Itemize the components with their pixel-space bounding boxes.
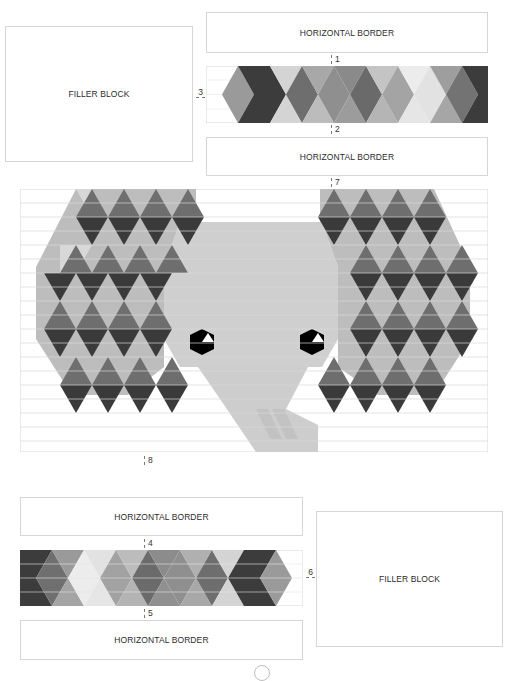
seam-marker-7: 7 [331,177,340,187]
dashed-arrow-icon [144,456,146,465]
horizontal-border-label: HORIZONTAL BORDER [300,152,394,162]
horizontal-border-label: HORIZONTAL BORDER [114,512,208,522]
dashed-arrow-icon [196,97,205,99]
dashed-arrow-icon [331,178,333,187]
horizontal-border-label: HORIZONTAL BORDER [114,635,208,645]
seam-marker-8: 8 [144,455,153,465]
horizontal-border-bottom-2: HORIZONTAL BORDER [20,620,303,660]
dashed-arrow-icon [144,539,146,548]
dashed-arrow-icon [331,55,333,64]
pieced-border-strip-top [206,66,488,123]
seam-marker-6: 6 [306,567,315,579]
filler-block-bottom-right: FILLER BLOCK [316,511,503,647]
horizontal-border-top-2: HORIZONTAL BORDER [206,137,488,176]
filler-block-label: FILLER BLOCK [68,89,129,99]
filler-block-label: FILLER BLOCK [379,574,440,584]
pieced-border-strip-bottom [20,550,303,606]
seam-marker-1: 1 [331,54,340,64]
elephant-quilt-panel [20,189,488,452]
horizontal-border-label: HORIZONTAL BORDER [300,28,394,38]
filler-block-top-left: FILLER BLOCK [5,26,193,162]
seam-marker-3: 3 [196,87,205,99]
seam-marker-5: 5 [144,608,153,618]
horizontal-border-top-1: HORIZONTAL BORDER [206,12,488,53]
page-number-circle [254,665,270,681]
dashed-arrow-icon [306,577,315,579]
horizontal-border-bottom-1: HORIZONTAL BORDER [20,497,303,536]
seam-marker-4: 4 [144,538,153,548]
seam-marker-2: 2 [331,124,340,134]
dashed-arrow-icon [144,609,146,618]
dashed-arrow-icon [331,125,333,134]
